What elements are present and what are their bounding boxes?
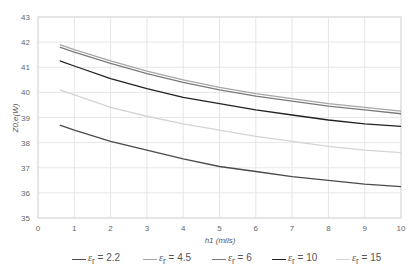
legend-swatch [143,259,157,260]
legend-item-er-6: εr = 6 [212,252,252,266]
svg-text:4: 4 [181,224,186,233]
legend-label: εr = 2.2 [88,252,120,266]
x-axis-ticks: 012345678910 [36,224,406,233]
grid-lines [38,17,401,218]
svg-text:36: 36 [21,189,30,198]
svg-text:6: 6 [254,224,259,233]
svg-text:8: 8 [326,224,331,233]
svg-text:5: 5 [217,224,222,233]
svg-text:39: 39 [21,114,30,123]
legend: εr = 2.2 εr = 4.5 εr = 6 εr = 10 εr = 15 [0,252,416,268]
legend-swatch [72,259,86,260]
svg-text:43: 43 [21,13,30,22]
legend-item-er-4-5: εr = 4.5 [143,252,191,266]
svg-text:0: 0 [36,224,41,233]
legend-item-er-15: εr = 15 [336,252,381,266]
y-axis-title: Z0,e(W) [11,103,20,133]
legend-item-er-2-2: εr = 2.2 [72,252,120,266]
svg-text:10: 10 [397,224,406,233]
legend-swatch [272,259,286,260]
svg-text:40: 40 [21,88,30,97]
svg-text:2: 2 [108,224,113,233]
svg-text:38: 38 [21,139,30,148]
y-axis-ticks: 353637383940414243 [21,13,30,223]
legend-swatch [212,259,226,260]
line-chart: 353637383940414243 012345678910 h1 (mils… [0,0,416,250]
svg-text:41: 41 [21,63,30,72]
svg-text:42: 42 [21,38,30,47]
svg-text:35: 35 [21,214,30,223]
svg-text:3: 3 [145,224,150,233]
x-axis-title: h1 (mils) [205,236,236,245]
svg-text:37: 37 [21,164,30,173]
svg-text:9: 9 [362,224,367,233]
legend-label: εr = 4.5 [159,252,191,266]
svg-text:7: 7 [290,224,295,233]
legend-label: εr = 15 [352,252,381,266]
legend-item-er-10: εr = 10 [272,252,317,266]
svg-text:1: 1 [72,224,77,233]
legend-label: εr = 6 [228,252,252,266]
legend-swatch [336,259,350,260]
legend-label: εr = 10 [288,252,317,266]
